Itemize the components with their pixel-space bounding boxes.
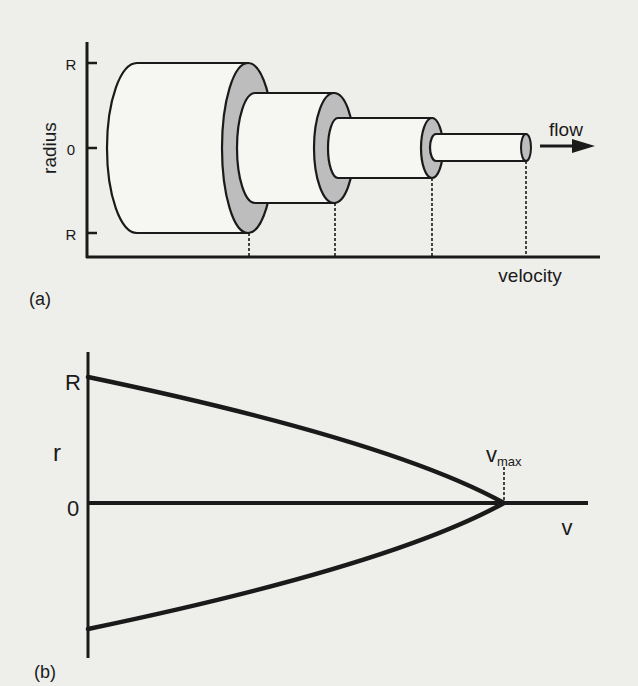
tick-label-0: 0	[67, 496, 79, 521]
shell-3-body	[328, 118, 432, 178]
tick-label-R-top: R	[66, 56, 77, 73]
vmax-label: vmax	[486, 442, 522, 469]
x-axis-label-v: v	[562, 515, 573, 540]
y-axis-label-r: r	[53, 439, 61, 466]
flow-label: flow	[549, 119, 583, 140]
figure-canvas: R 0 R radius flow velocity (a)	[0, 0, 638, 686]
shell-4-ring	[521, 134, 531, 161]
panel-a-label: (a)	[29, 289, 51, 309]
x-axis-label-velocity: velocity	[498, 265, 562, 286]
panel-b: R 0 r v vmax (b)	[34, 352, 588, 682]
y-axis-label-radius: radius	[39, 122, 60, 174]
tick-label-zero: 0	[67, 141, 75, 158]
panel-a: R 0 R radius flow velocity (a)	[29, 42, 600, 309]
tick-label-R: R	[65, 370, 81, 395]
flow-arrow-icon	[540, 139, 595, 153]
shell-4-body	[430, 134, 526, 161]
tick-label-R-bottom: R	[66, 226, 77, 243]
panel-b-label: (b)	[34, 662, 56, 682]
